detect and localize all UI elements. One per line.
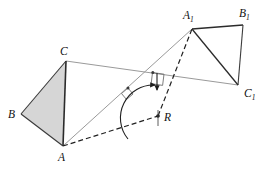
midpoint-dot-aa1 — [127, 87, 130, 90]
segment-r-to-a1-dashed — [158, 29, 192, 116]
label-r: R — [163, 111, 171, 123]
figure-canvas: B C A R A1 B1 C1 — [0, 0, 272, 173]
segment-c1-to-a1 — [192, 29, 238, 85]
segment-a-to-r-dashed — [63, 116, 158, 146]
label-c: C — [60, 45, 68, 57]
midpoint-dot-cc1 — [151, 71, 154, 74]
label-c1-sub: 1 — [252, 93, 256, 102]
label-a1: A1 — [182, 9, 194, 24]
triangle-abc-shading — [21, 61, 66, 146]
label-c1: C1 — [244, 87, 255, 102]
label-b1: B1 — [239, 7, 250, 22]
segment-b1-to-c1 — [238, 25, 243, 85]
label-b1-base: B — [239, 7, 246, 19]
label-b1-sub: 1 — [246, 13, 250, 22]
geometry-figure: B C A R A1 B1 C1 — [0, 0, 272, 173]
rotation-angle-arc — [120, 85, 155, 139]
segment-a1-to-b1 — [192, 25, 243, 29]
label-a: A — [57, 151, 66, 163]
label-a1-sub: 1 — [190, 15, 194, 24]
label-b: B — [8, 108, 15, 120]
